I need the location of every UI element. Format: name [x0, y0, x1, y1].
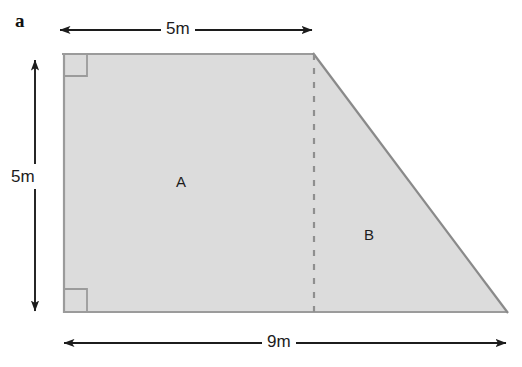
dimension-label-left: 5m	[8, 164, 38, 189]
region-label-b: B	[364, 227, 374, 242]
item-letter: a	[15, 11, 25, 30]
region-label-a: A	[176, 174, 186, 189]
figure-canvas	[0, 0, 522, 367]
dimension-label-bottom: 9m	[262, 332, 296, 351]
geometry-figure: a 5m 5m 9m A B	[0, 0, 522, 367]
dimension-label-top: 5m	[161, 19, 195, 38]
trapezium-shape	[63, 53, 508, 313]
